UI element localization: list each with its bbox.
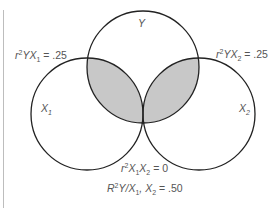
annotation-r2-x1x2: r2X1X2 = 0 <box>121 163 168 174</box>
annotation-R2-y-x1x2: R2Y/X1, X2 = .50 <box>107 183 183 194</box>
label-x2: X2 <box>239 103 250 114</box>
annotation-r2-yx1: r2YX1 = .25 <box>15 50 67 61</box>
label-x1: X1 <box>41 103 52 114</box>
annotation-r2-yx2: r2YX2 = .25 <box>216 49 268 60</box>
label-y: Y <box>138 18 145 29</box>
